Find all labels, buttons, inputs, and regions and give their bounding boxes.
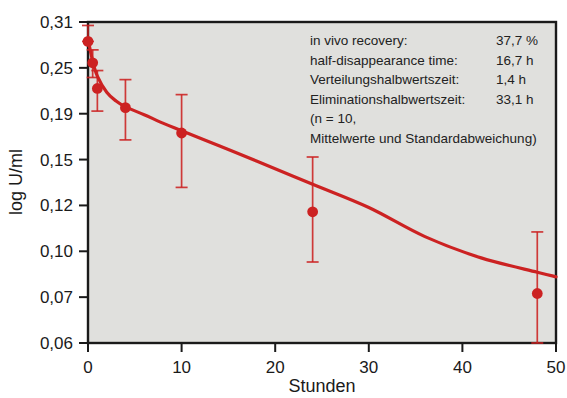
- y-tick-label: 0,06: [40, 334, 73, 353]
- annotation-label: Eliminationshalbwertszeit:: [310, 92, 465, 107]
- y-tick-label: 0,31: [40, 13, 73, 32]
- annotation-value: 37,7 %: [496, 33, 538, 48]
- annotation-value: 1,4 h: [496, 72, 526, 87]
- y-tick-label: 0,07: [40, 288, 73, 307]
- y-tick-label: 0,12: [40, 196, 73, 215]
- annotation-label: Verteilungshalbwertszeit:: [310, 72, 459, 87]
- y-tick-label: 0,25: [40, 59, 73, 78]
- x-axis-ticks: 01020304050: [83, 343, 565, 377]
- data-point-marker: [92, 83, 103, 94]
- chart-container: 0,310,250,190,150,120,100,070,06 0102030…: [0, 0, 567, 398]
- annotation-label: in vivo recovery:: [310, 33, 408, 48]
- x-tick-label: 40: [453, 358, 472, 377]
- x-tick-label: 10: [172, 358, 191, 377]
- annotation-label: half-disappearance time:: [310, 53, 458, 68]
- data-point-marker: [307, 206, 318, 217]
- y-tick-label: 0,15: [40, 151, 73, 170]
- x-axis-title: Stunden: [288, 376, 355, 396]
- chart-svg: 0,310,250,190,150,120,100,070,06 0102030…: [0, 0, 567, 398]
- x-tick-label: 50: [547, 358, 566, 377]
- annotation-note-line2: Mittelwerte und Standardabweichung): [310, 131, 537, 146]
- y-axis-ticks: 0,310,250,190,150,120,100,070,06: [40, 13, 88, 353]
- data-point-marker: [120, 102, 131, 113]
- y-axis-title: log U/ml: [6, 149, 26, 215]
- annotation-note-line1: (n = 10,: [310, 111, 356, 126]
- x-tick-label: 20: [266, 358, 285, 377]
- data-point-marker: [87, 57, 98, 68]
- data-point-marker: [176, 128, 187, 139]
- annotation-value: 33,1 h: [496, 92, 534, 107]
- x-tick-label: 0: [83, 358, 92, 377]
- y-tick-label: 0,10: [40, 242, 73, 261]
- data-point-marker: [83, 36, 94, 47]
- annotation-value: 16,7 h: [496, 53, 534, 68]
- y-tick-label: 0,19: [40, 105, 73, 124]
- x-tick-label: 30: [359, 358, 378, 377]
- plot-area-background: [88, 22, 556, 343]
- data-point-marker: [532, 288, 543, 299]
